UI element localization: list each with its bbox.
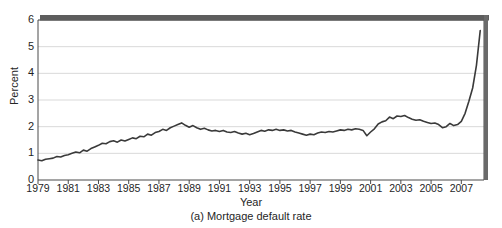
figure-mortgage-default-rate: Percent 0123456 197919811983198519871989… [0, 0, 502, 228]
x-tick-label: 1979 [26, 182, 49, 194]
y-tick-label: 3 [20, 94, 34, 105]
x-tick-label: 1983 [87, 182, 110, 194]
y-tick-label: 6 [20, 14, 34, 25]
y-tick-label: 1 [20, 147, 34, 158]
x-tick-label: 2007 [450, 182, 473, 194]
x-tick-label: 1995 [268, 182, 291, 194]
data-line-mortgage-default-rate [38, 31, 480, 161]
y-tick-label: 4 [20, 67, 34, 78]
x-tick-label: 1985 [117, 182, 140, 194]
y-tick-label: 5 [20, 41, 34, 52]
figure-caption: (a) Mortgage default rate [0, 210, 502, 222]
gridlines [38, 20, 484, 153]
x-tick-label: 1991 [208, 182, 231, 194]
x-tick-label: 2003 [389, 182, 412, 194]
x-tick-label: 2005 [419, 182, 442, 194]
x-tick-label: 1999 [329, 182, 352, 194]
y-tick-label: 2 [20, 121, 34, 132]
x-tick-label: 1993 [238, 182, 261, 194]
x-tick-label: 1981 [57, 182, 80, 194]
scan-artifacts [40, 15, 489, 180]
x-tick-label: 1997 [298, 182, 321, 194]
scan-artifact-top-band [40, 15, 489, 21]
scan-artifact-right-band [484, 15, 488, 180]
x-tick-label: 1989 [177, 182, 200, 194]
x-tick-label: 1987 [147, 182, 170, 194]
x-tick-label: 2001 [359, 182, 382, 194]
x-axis-label: Year [0, 196, 502, 208]
